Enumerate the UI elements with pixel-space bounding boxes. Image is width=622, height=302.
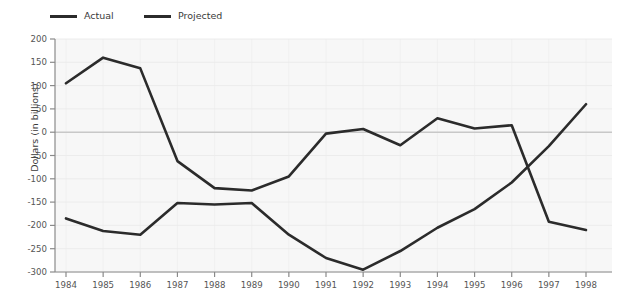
y-axis-tick-label: 100 [31, 81, 47, 91]
y-axis-tick-label: 200 [31, 34, 47, 44]
x-axis-tick-label: 1998 [575, 280, 597, 290]
y-axis-tick-label: 50 [36, 104, 47, 114]
y-axis-tick-label: -200 [27, 220, 47, 230]
x-axis-tick-label: 1996 [501, 280, 523, 290]
chart-svg: 200150100500-50-100-150-200-250-300 1984… [0, 0, 622, 302]
y-axis-tick-label: 0 [42, 127, 47, 137]
x-axis-tick-label: 1988 [204, 280, 226, 290]
chart-container: Actual Projected Dollars (in billions) 2… [0, 0, 622, 302]
x-axis-tick-label: 1989 [241, 280, 263, 290]
x-axis-tick-label: 1991 [315, 280, 337, 290]
x-axis-tick-label: 1993 [389, 280, 411, 290]
y-axis-tick-label: -250 [27, 244, 47, 254]
x-axis-tick-label: 1986 [129, 280, 151, 290]
plot-area: 200150100500-50-100-150-200-250-300 1984… [0, 0, 622, 302]
y-axis-tick-label: -300 [27, 267, 47, 277]
x-axis-tick-label: 1984 [55, 280, 77, 290]
x-axis-tick-label: 1985 [92, 280, 114, 290]
x-axis-group: 1984198519861987198819891990199119921993… [55, 272, 612, 290]
y-axis-tick-label: -150 [27, 197, 47, 207]
y-axis-tick-label: -50 [33, 151, 47, 161]
x-axis-tick-label: 1997 [538, 280, 560, 290]
x-axis-tick-label: 1995 [464, 280, 486, 290]
y-axis-group: 200150100500-50-100-150-200-250-300 [27, 34, 55, 277]
y-axis-tick-label: -100 [27, 174, 47, 184]
y-axis-tick-label: 150 [31, 57, 47, 67]
x-axis-tick-label: 1992 [352, 280, 374, 290]
x-axis-tick-label: 1987 [166, 280, 188, 290]
x-axis-tick-label: 1990 [278, 280, 300, 290]
x-axis-tick-label: 1994 [426, 280, 448, 290]
